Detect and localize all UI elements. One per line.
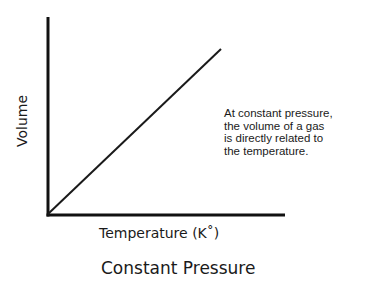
annotation-line: the temperature. <box>224 145 333 158</box>
data-line <box>48 49 221 214</box>
y-axis-label: Volume <box>14 95 30 147</box>
annotation-line: the volume of a gas <box>224 120 333 133</box>
annotation-line: is directly related to <box>224 132 333 145</box>
annotation-line: At constant pressure, <box>224 107 333 120</box>
x-axis-label: Temperature (K˚) <box>99 225 219 241</box>
chart-title: Constant Pressure <box>101 258 255 278</box>
chart-figure: Volume Temperature (K˚) Constant Pressur… <box>0 0 369 293</box>
annotation-text: At constant pressure, the volume of a ga… <box>224 107 333 157</box>
